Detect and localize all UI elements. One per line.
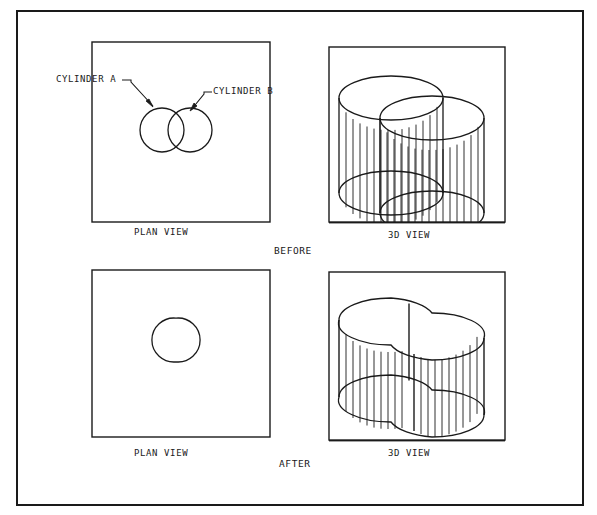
callout-label-cylinder-a: CYLINDER A bbox=[56, 75, 116, 84]
callout-label-cylinder-b: CYLINDER B bbox=[213, 87, 273, 96]
three-d-view-label-before: 3D VIEW bbox=[388, 231, 430, 240]
stage-label-before: BEFORE bbox=[274, 246, 312, 256]
stage-label-after: AFTER bbox=[279, 459, 311, 469]
three-d-view-label-after: 3D VIEW bbox=[388, 449, 430, 458]
plan-view-label-after: PLAN VIEW bbox=[134, 449, 188, 458]
plan-view-label-before: PLAN VIEW bbox=[134, 228, 188, 237]
